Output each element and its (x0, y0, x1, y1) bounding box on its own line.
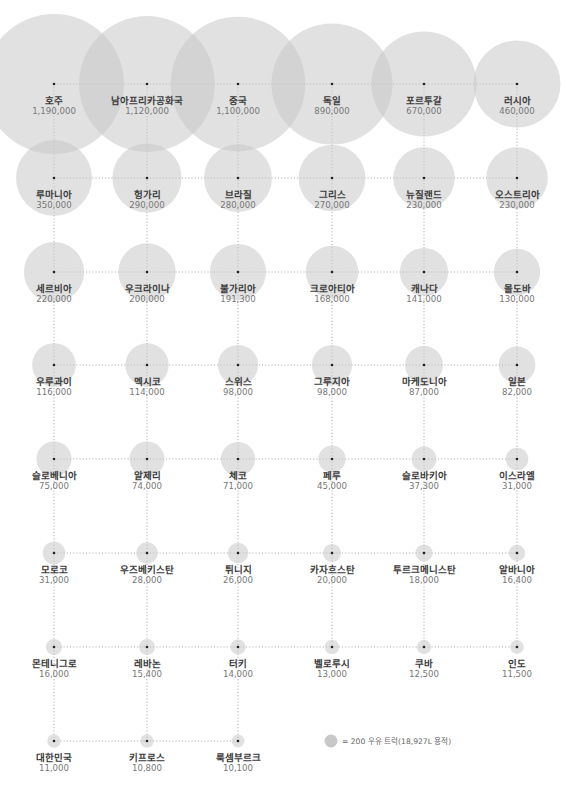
center-dot (237, 83, 240, 86)
country-label: 중국 (229, 95, 247, 106)
center-dot (423, 458, 426, 461)
country-label: 일본 (508, 376, 526, 387)
center-dot (423, 646, 426, 649)
center-dot (237, 646, 240, 649)
center-dot (53, 552, 56, 555)
center-dot (331, 458, 334, 461)
value-label: 71,000 (223, 481, 253, 491)
country-label: 모로코 (41, 564, 68, 575)
country-label: 터키 (229, 658, 247, 669)
value-label: 98,000 (223, 387, 253, 397)
center-dot (53, 646, 56, 649)
country-label: 뉴질랜드 (406, 189, 442, 200)
country-label: 러시아 (504, 95, 531, 106)
center-dot (423, 552, 426, 555)
country-label: 레바논 (134, 658, 161, 669)
country-label: 카자흐스탄 (310, 564, 355, 575)
bubble-chart: 호주1,190,000남아프리카공화국1,120,000중국1,100,000독… (0, 0, 566, 810)
country-label: 키프로스 (129, 752, 165, 763)
center-dot (146, 271, 149, 274)
country-label: 슬로베니아 (32, 470, 77, 481)
value-label: 75,000 (39, 481, 69, 491)
value-label: 270,000 (314, 200, 350, 210)
value-label: 230,000 (499, 200, 535, 210)
country-label: 루마니아 (36, 189, 72, 200)
value-label: 82,000 (502, 387, 532, 397)
country-label: 크로아티아 (310, 283, 355, 294)
value-label: 37,300 (409, 481, 439, 491)
country-label: 알제리 (134, 470, 161, 481)
center-dot (146, 364, 149, 367)
value-label: 11,000 (39, 763, 69, 773)
value-label: 670,000 (406, 106, 442, 116)
value-label: 130,000 (499, 294, 535, 304)
center-dot (53, 364, 56, 367)
country-label: 호주 (45, 95, 63, 106)
country-label: 그리스 (319, 189, 346, 200)
center-dot (423, 364, 426, 367)
center-dot (331, 271, 334, 274)
country-label: 페루 (323, 470, 341, 481)
center-dot (331, 552, 334, 555)
value-label: 10,100 (223, 763, 253, 773)
center-dot (423, 271, 426, 274)
value-label: 45,000 (317, 481, 347, 491)
bubbles (0, 14, 561, 748)
value-label: 191,300 (220, 294, 256, 304)
center-dot (237, 458, 240, 461)
value-label: 290,000 (129, 200, 165, 210)
value-label: 230,000 (406, 200, 442, 210)
center-dot (516, 552, 519, 555)
value-label: 10,800 (132, 763, 162, 773)
legend: = 200 우유 트럭(18,927L 용적) (325, 735, 452, 748)
value-label: 16,000 (39, 669, 69, 679)
country-label: 쿠바 (415, 658, 433, 669)
value-label: 168,000 (314, 294, 350, 304)
value-label: 116,000 (36, 387, 72, 397)
country-label: 스위스 (225, 376, 252, 387)
center-dot (237, 552, 240, 555)
country-label: 인도 (508, 658, 526, 669)
value-label: 31,000 (502, 481, 532, 491)
center-dot (516, 458, 519, 461)
country-label: 남아프리카공화국 (111, 95, 183, 106)
legend-text: = 200 우유 트럭(18,927L 용적) (342, 736, 451, 746)
center-dot (331, 364, 334, 367)
legend-swatch (325, 735, 338, 748)
country-label: 그루지아 (314, 376, 350, 387)
country-label: 몰도바 (504, 283, 531, 294)
value-label: 14,000 (223, 669, 253, 679)
value-label: 114,000 (129, 387, 165, 397)
center-dot (237, 364, 240, 367)
value-label: 74,000 (132, 481, 162, 491)
center-dot (53, 740, 56, 743)
country-label: 룩셈부르크 (216, 752, 261, 763)
center-dot (237, 740, 240, 743)
value-label: 220,000 (36, 294, 72, 304)
country-label: 슬로바키아 (402, 470, 447, 481)
country-label: 세르비아 (36, 283, 72, 294)
value-label: 141,000 (406, 294, 442, 304)
value-label: 18,000 (409, 575, 439, 585)
value-label: 12,500 (409, 669, 439, 679)
center-dot (331, 646, 334, 649)
value-label: 1,120,000 (125, 106, 169, 116)
labels: 호주1,190,000남아프리카공화국1,120,000중국1,100,000독… (32, 95, 540, 773)
country-label: 우즈베키스탄 (120, 564, 174, 575)
country-label: 멕시코 (134, 376, 161, 387)
center-dot (331, 83, 334, 86)
country-label: 캐나다 (411, 283, 438, 294)
value-label: 1,100,000 (216, 106, 260, 116)
country-label: 벨로루시 (314, 658, 350, 669)
country-label: 독일 (323, 95, 341, 106)
center-dot (237, 177, 240, 180)
value-label: 200,000 (129, 294, 165, 304)
country-label: 대한민국 (36, 752, 72, 763)
country-label: 불가리아 (220, 283, 256, 294)
country-label: 몬테니그로 (32, 658, 77, 669)
center-dot (516, 83, 519, 86)
center-dot (516, 364, 519, 367)
center-dot (146, 552, 149, 555)
center-dot (516, 646, 519, 649)
country-label: 이스라엘 (499, 470, 535, 481)
